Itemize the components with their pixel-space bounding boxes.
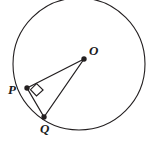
geometry-canvas [0,0,154,142]
circle-shape [13,0,145,130]
segment-pq [27,88,44,117]
geometry-diagram: O P Q [0,0,154,142]
point-o-dot [81,56,86,61]
segment-oq [44,59,84,117]
point-o-label: O [89,44,98,57]
point-p-label: P [8,83,16,96]
segment-op [27,59,84,88]
point-q-dot [41,114,46,119]
point-p-dot [24,85,29,90]
point-q-label: Q [40,122,49,135]
